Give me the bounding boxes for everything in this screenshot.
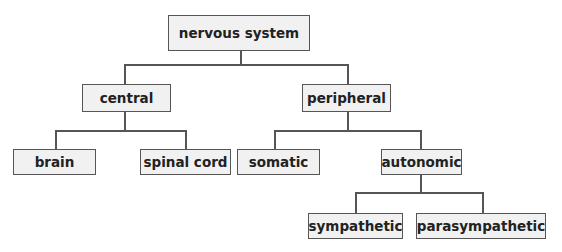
node-nervous-system: nervous system <box>168 15 310 51</box>
connector-central-down <box>124 111 126 131</box>
connector-peripheral-down <box>347 112 349 131</box>
node-autonomic: autonomic <box>381 149 462 175</box>
connector-to-autonomic <box>420 130 422 149</box>
node-spinal-cord: spinal cord <box>140 149 231 175</box>
connector-peripheral-branch <box>274 130 421 132</box>
node-parasympathetic: parasympathetic <box>416 213 546 239</box>
connector-central-branch <box>55 130 186 132</box>
connector-to-sympathetic <box>355 192 357 213</box>
node-brain: brain <box>13 149 96 175</box>
connector-to-spinal-cord <box>185 130 187 149</box>
connector-to-parasympathetic <box>482 192 484 213</box>
connector-autonomic-down <box>420 174 422 193</box>
connector-to-brain <box>55 130 57 149</box>
node-somatic: somatic <box>237 149 320 175</box>
node-central: central <box>82 84 171 112</box>
connector-to-peripheral <box>347 64 349 84</box>
connector-to-central <box>124 64 126 84</box>
connector-root-branch <box>124 64 348 66</box>
node-sympathetic: sympathetic <box>308 213 403 239</box>
connector-root-down <box>240 50 242 65</box>
node-peripheral: peripheral <box>302 84 391 112</box>
connector-to-somatic <box>274 130 276 149</box>
connector-autonomic-branch <box>355 192 483 194</box>
